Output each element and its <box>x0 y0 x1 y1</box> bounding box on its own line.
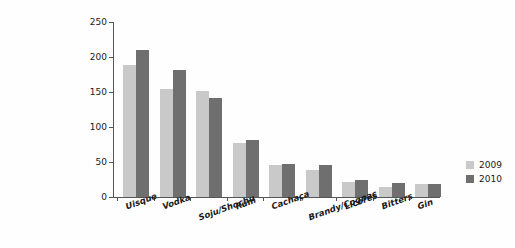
legend: 20092010 <box>466 158 502 186</box>
legend-swatch-2010 <box>466 175 474 183</box>
x-tick-mark <box>227 197 228 201</box>
bar-2009-bitters <box>379 187 392 198</box>
legend-label: 2010 <box>479 174 502 184</box>
bar-2009-cacha-a <box>269 165 282 197</box>
bar-2010-soju-shochu <box>209 98 222 197</box>
bar-2009-rum <box>233 143 246 197</box>
x-tick-mark <box>263 197 264 201</box>
legend-item: 2009 <box>466 158 502 172</box>
chart-figure: Vendas (milhões de caixas de 9 litros) 0… <box>0 0 515 248</box>
y-tick-label: 50 <box>96 157 107 167</box>
y-tick-mark <box>109 92 113 93</box>
y-tick-mark <box>109 22 113 23</box>
bar-2010-rum <box>246 140 259 197</box>
y-tick-mark <box>109 197 113 198</box>
bar-2009-gin <box>415 184 428 197</box>
x-axis-label: Gin <box>416 197 434 212</box>
legend-swatch-2009 <box>466 161 474 169</box>
y-tick-label: 150 <box>90 87 107 97</box>
bar-2010-vodka <box>173 70 186 197</box>
y-axis-title: Vendas (milhões de caixas de 9 litros) <box>0 22 8 202</box>
bar-2009-uisque <box>123 65 136 197</box>
y-tick-label: 0 <box>101 192 107 202</box>
legend-item: 2010 <box>466 172 502 186</box>
y-tick-label: 200 <box>90 52 107 62</box>
legend-label: 2009 <box>479 160 502 170</box>
plot-area: 050100150200250 UisqueVodkaSoju/ShochuRu… <box>113 22 440 197</box>
bar-2010-cacha-a <box>282 164 295 197</box>
y-tick-label: 100 <box>90 122 107 132</box>
y-tick-mark <box>109 57 113 58</box>
bar-2009-vodka <box>160 89 173 198</box>
bar-2009-soju-shochu <box>196 91 209 197</box>
x-tick-mark <box>117 197 118 201</box>
x-tick-mark <box>336 197 337 201</box>
bar-2010-uisque <box>136 50 149 197</box>
y-tick-mark <box>109 162 113 163</box>
y-tick-label: 250 <box>90 17 107 27</box>
y-tick-mark <box>109 127 113 128</box>
bar-2009-licores <box>342 182 355 197</box>
bar-2010-brandy-cognac <box>319 165 332 197</box>
y-axis-line <box>113 22 114 197</box>
bar-2010-gin <box>428 184 441 197</box>
